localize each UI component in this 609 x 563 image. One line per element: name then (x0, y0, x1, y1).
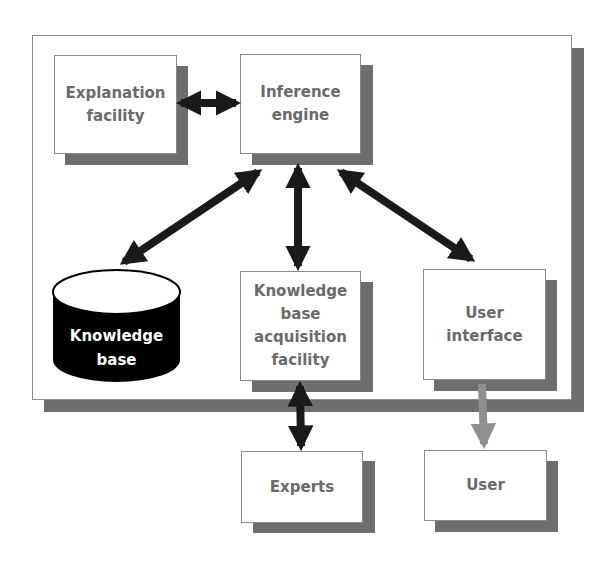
arrow-kb-acquisition-experts (300, 386, 301, 446)
arrow-user-interface-user (482, 384, 484, 444)
arrow-inference-knowledge-base (124, 172, 258, 262)
diagram-graphics (0, 0, 609, 563)
arrow-inference-user-interface (341, 172, 471, 259)
knowledge-base-label: Knowledge base (53, 314, 180, 382)
